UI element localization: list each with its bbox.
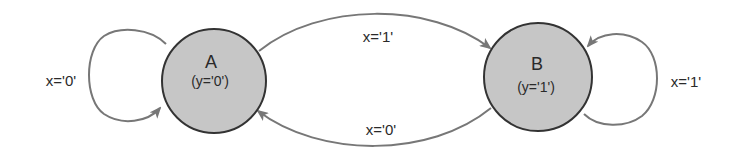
transition-a-to-a [89,30,166,121]
label-a-to-b: x='1' [363,28,393,45]
state-a-name: A [205,52,217,72]
state-a-output: (y='0') [191,73,229,89]
state-b-circle [484,23,592,131]
self-loop-arrow-a [89,30,166,121]
label-b-to-a: x='0' [366,121,396,138]
state-b-output: (y='1') [517,79,555,95]
state-a: A (y='0') [162,29,266,133]
self-loop-arrow-b [584,34,657,125]
state-diagram: A (y='0') B (y='1') x='0' x='1' x='0' x=… [0,0,747,153]
transition-b-to-b [584,34,657,125]
label-b-self-loop: x='1' [671,73,701,90]
label-a-self-loop: x='0' [46,72,76,89]
state-b: B (y='1') [484,23,592,131]
state-b-name: B [531,54,543,74]
